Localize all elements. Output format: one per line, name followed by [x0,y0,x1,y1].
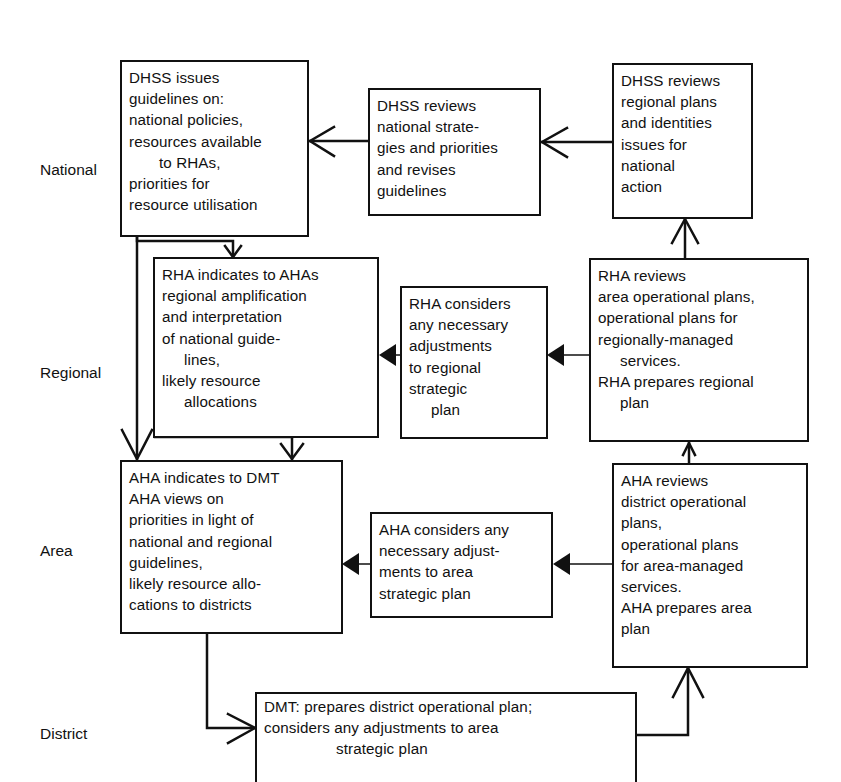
node-text-line: national strate- [377,116,533,137]
node-text-line: and revises [377,159,533,180]
node-text-line: AHA prepares area [621,597,800,618]
node-text-line: DHSS issues [129,67,301,88]
node-text-line: guidelines on: [129,88,301,109]
edge-dmt-to-aha-reviews [636,668,688,735]
node-text-line: for area-managed [621,555,800,576]
node-text-line: regionally-managed [598,329,801,350]
node-text-line: plans, [621,512,800,533]
level-label-area: Area [40,542,73,560]
node-text-line: AHA considers any [379,519,545,540]
node-text-line: RHA indicates to AHAs [162,264,371,285]
node-text-line: services. [621,576,800,597]
node-text-line: resources available [129,131,301,152]
node-text-line: ments to area [379,561,545,582]
node-text-line: priorities in light of [129,509,335,530]
node-text-line: resource utilisation [129,194,301,215]
node-text-line: national [621,155,745,176]
node-rha-indicates-to-ahas: RHA indicates to AHAs regional amplifica… [153,257,379,438]
node-aha-reviews-district-plans: AHA reviews district operational plans, … [612,463,808,668]
node-text-line: area operational plans, [598,286,801,307]
node-aha-indicates-to-dmt: AHA indicates to DMT AHA views on priori… [120,460,343,634]
node-dhss-reviews-regional-plans: DHSS reviews regional plans and identiti… [612,63,753,219]
node-text-line: action [621,176,745,197]
node-text-line: AHA views on [129,488,335,509]
node-dmt-prepares-plan: DMT: prepares district operational plan;… [255,692,637,782]
node-text-line: strategic [409,378,540,399]
node-text-line: allocations [162,391,371,412]
node-text-line: lines, [162,349,371,370]
node-text-line: regional amplification [162,285,371,306]
node-text-line: issues for [621,134,745,155]
node-text-line: to regional [409,357,540,378]
node-rha-considers-adjustments: RHA considers any necessary adjustments … [400,286,548,439]
node-text-line: to RHAs, [129,152,301,173]
level-label-district: District [40,725,87,743]
node-text-line: any necessary [409,314,540,335]
node-text-line: likely resource allo- [129,573,335,594]
node-text-line: services. [598,350,801,371]
node-text-line: DHSS reviews [621,70,745,91]
node-text-line: regional plans [621,91,745,112]
edge-aha-indicates-to-dmt [207,633,255,728]
node-text-line: RHA prepares regional [598,371,801,392]
node-text-line: strategic plan [264,738,629,759]
node-rha-reviews-area-plans: RHA reviews area operational plans, oper… [589,258,809,442]
node-text-line: plan [621,618,800,639]
node-text-line: considers any adjustments to area [264,717,629,738]
level-label-regional: Regional [40,364,101,382]
node-text-line: gies and priorities [377,137,533,158]
node-text-line: AHA reviews [621,470,800,491]
node-text-line: necessary adjust- [379,540,545,561]
node-text-line: likely resource [162,370,371,391]
node-text-line: operational plans [621,534,800,555]
node-text-line: national policies, [129,109,301,130]
node-text-line: guidelines, [129,552,335,573]
node-text-line: DMT: prepares district operational plan; [264,696,629,717]
filled-arrowhead-icon [342,553,359,575]
filled-arrowhead-icon [379,344,396,366]
level-label-national: National [40,161,97,179]
node-text-line: AHA indicates to DMT [129,467,335,488]
node-text-line: cations to districts [129,594,335,615]
edge-dhss-issues-to-rha-indicates [137,236,233,257]
node-dhss-reviews-national-strategies: DHSS reviews national strate- gies and p… [368,88,541,216]
node-text-line: of national guide- [162,328,371,349]
node-text-line: operational plans for [598,307,801,328]
node-text-line: RHA considers [409,293,540,314]
node-text-line: RHA reviews [598,265,801,286]
filled-arrowhead-icon [547,344,564,366]
node-text-line: and identities [621,112,745,133]
node-text-line: adjustments [409,335,540,356]
node-text-line: strategic plan [379,583,545,604]
node-text-line: guidelines [377,180,533,201]
node-text-line: plan [598,392,801,413]
node-text-line: national and regional [129,531,335,552]
node-text-line: and interpretation [162,306,371,327]
node-text-line: district operational [621,491,800,512]
filled-arrowhead-icon [553,553,570,575]
node-text-line: plan [409,399,540,420]
node-text-line: DHSS reviews [377,95,533,116]
node-text-line: priorities for [129,173,301,194]
node-dhss-issues-guidelines: DHSS issues guidelines on: national poli… [120,60,309,237]
node-aha-considers-adjustments: AHA considers any necessary adjust- ment… [370,512,553,618]
